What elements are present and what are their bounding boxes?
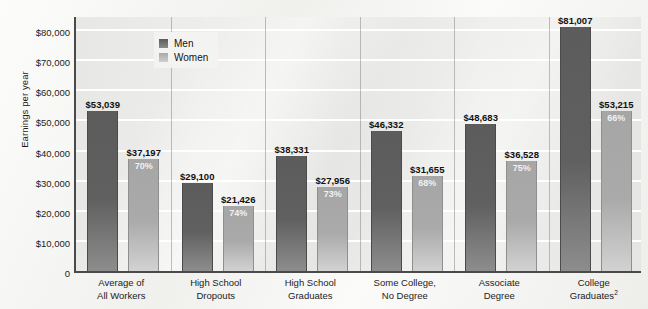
- x-axis-category-label-line: Average of: [74, 277, 169, 290]
- bar-value-label-men: $81,007: [558, 15, 592, 26]
- bar-value-label-women: $27,956: [316, 175, 350, 186]
- bar-men: $48,683: [465, 124, 496, 271]
- gridline: [76, 29, 641, 31]
- gridline: [76, 180, 641, 182]
- bar-women: $21,42674%: [223, 206, 254, 271]
- y-axis-tick-label: $20,000: [8, 207, 70, 218]
- x-axis-category-label: CollegeGraduates2: [547, 277, 642, 302]
- y-axis-tick-label: $70,000: [8, 57, 70, 68]
- category-separator: [454, 17, 455, 271]
- earnings-by-education-bar-chart: Earnings per year $80,000$70,000$60,000$…: [0, 0, 648, 309]
- gridline: [76, 210, 641, 212]
- legend-swatch-men-icon: [159, 39, 168, 48]
- bar-value-label-women: $21,426: [221, 194, 255, 205]
- category-separator: [549, 17, 550, 271]
- bar-value-label-men: $38,331: [275, 144, 309, 155]
- bar-ratio-label-women: 75%: [513, 163, 531, 173]
- y-axis-tick-label: $80,000: [8, 27, 70, 38]
- bar-women: $37,19770%: [128, 159, 159, 271]
- footnote-marker: 2: [614, 288, 618, 295]
- x-axis-category-labels: Average ofAll WorkersHigh SchoolDropouts…: [74, 277, 641, 309]
- bar-women: $53,21566%: [601, 111, 632, 271]
- bar-value-label-men: $46,332: [369, 119, 403, 130]
- bar-men: $81,007: [560, 27, 591, 271]
- y-axis-tick-label: $10,000: [8, 237, 70, 248]
- category-separator: [265, 17, 266, 271]
- x-axis-category-label-line: Associate: [452, 277, 547, 290]
- x-axis-category-label-line: All Workers: [74, 290, 169, 303]
- y-axis-tick-label: 0: [8, 268, 70, 279]
- bar-men: $46,332: [371, 131, 402, 271]
- legend-item-label: Men: [174, 38, 193, 49]
- bar-value-label-women: $31,655: [410, 164, 444, 175]
- bar-men: $53,039: [87, 111, 118, 271]
- y-axis-tick-label: $40,000: [8, 147, 70, 158]
- x-axis-category-label-line: Degree: [452, 290, 547, 303]
- bar-value-label-men: $29,100: [180, 171, 214, 182]
- legend-swatch-women-icon: [159, 53, 168, 62]
- gridline: [76, 119, 641, 121]
- legend-item-label: Women: [174, 52, 208, 63]
- bar-men: $38,331: [276, 156, 307, 271]
- gridline: [76, 89, 641, 91]
- bar-women: $27,95673%: [317, 187, 348, 271]
- x-axis-category-label-line: No Degree: [358, 290, 453, 303]
- bar-ratio-label-women: 74%: [229, 208, 247, 218]
- x-axis-category-label-line: Dropouts: [169, 290, 264, 303]
- bar-women: $36,52875%: [506, 161, 537, 271]
- bar-value-label-men: $53,039: [86, 99, 120, 110]
- bar-value-label-men: $48,683: [464, 112, 498, 123]
- legend-item-men: Men: [159, 36, 208, 50]
- bar-ratio-label-women: 70%: [135, 161, 153, 171]
- chart-legend: MenWomen: [154, 32, 218, 68]
- x-axis-category-label: High SchoolDropouts: [169, 277, 264, 302]
- gridline: [76, 240, 641, 242]
- x-axis-category-label: Some College,No Degree: [358, 277, 453, 302]
- bar-ratio-label-women: 68%: [418, 178, 436, 188]
- x-axis-category-label: Average ofAll Workers: [74, 277, 169, 302]
- y-axis-tick-labels: $80,000$70,000$60,000$50,000$40,000$30,0…: [8, 0, 70, 309]
- bar-ratio-label-women: 73%: [324, 189, 342, 199]
- bar-men: $29,100: [182, 183, 213, 271]
- x-axis-category-label-line: College: [547, 277, 642, 290]
- x-axis-category-label-line: High School: [263, 277, 358, 290]
- x-axis-category-label-line: High School: [169, 277, 264, 290]
- y-axis-tick-label: $50,000: [8, 117, 70, 128]
- x-axis-category-label-line: Graduates: [263, 290, 358, 303]
- bar-value-label-women: $37,197: [127, 147, 161, 158]
- x-axis-category-label-line: Graduates2: [547, 290, 642, 303]
- bar-value-label-women: $53,215: [599, 99, 633, 110]
- x-axis-category-label: High SchoolGraduates: [263, 277, 358, 302]
- bar-women: $31,65568%: [412, 176, 443, 271]
- legend-item-women: Women: [159, 50, 208, 64]
- y-axis-tick-label: $30,000: [8, 177, 70, 188]
- category-separator: [360, 17, 361, 271]
- y-axis-tick-label: $60,000: [8, 87, 70, 98]
- bar-ratio-label-women: 66%: [607, 113, 625, 123]
- x-axis-category-label-line: Some College,: [358, 277, 453, 290]
- bar-value-label-women: $36,528: [505, 149, 539, 160]
- x-axis-category-label: AssociateDegree: [452, 277, 547, 302]
